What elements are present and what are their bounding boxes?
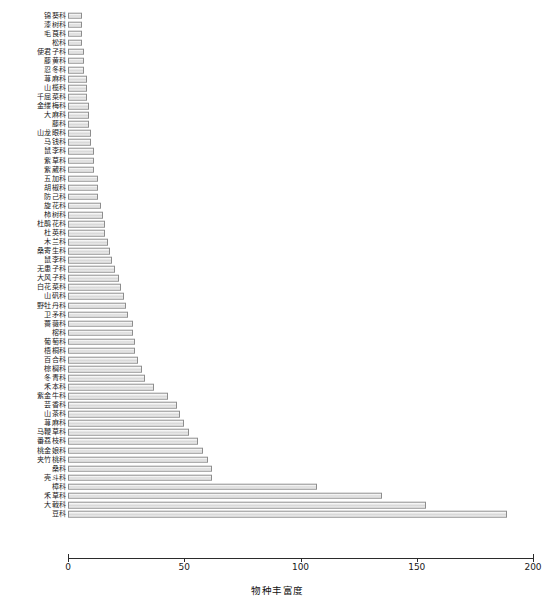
bar-row: 漆树科 xyxy=(0,20,555,29)
bar xyxy=(68,248,110,255)
bar-fill xyxy=(68,48,84,55)
bar-category-label: 大麻科 xyxy=(44,112,66,119)
bar-category-label: 棕榈科 xyxy=(44,365,66,372)
bar-category-label: 藤黄科 xyxy=(44,57,66,64)
bar xyxy=(68,266,115,273)
bar-fill xyxy=(68,284,121,291)
bar-category-label: 蔷薇科 xyxy=(44,320,66,327)
bar xyxy=(68,203,101,210)
bar-row: 山龙眼科 xyxy=(0,129,555,138)
bar xyxy=(68,21,82,28)
bar-fill xyxy=(68,465,212,472)
bar-category-label: 大戟科 xyxy=(44,501,66,508)
bar-row: 鼠李科 xyxy=(0,256,555,265)
bar-fill xyxy=(68,203,101,210)
bar xyxy=(68,511,507,518)
bar xyxy=(68,320,133,327)
bar xyxy=(68,193,98,200)
bar xyxy=(68,230,105,237)
bar-category-label: 梧桐科 xyxy=(44,347,66,354)
bar-fill xyxy=(68,121,89,128)
bar xyxy=(68,420,184,427)
bar xyxy=(68,184,98,191)
bar-fill xyxy=(68,175,98,182)
bar-row: 杜英科 xyxy=(0,229,555,238)
bar xyxy=(68,221,105,228)
bar xyxy=(68,302,126,309)
bar xyxy=(68,311,128,318)
bar-row: 马钱科 xyxy=(0,138,555,147)
bar-category-label: 柿树科 xyxy=(44,211,66,218)
bar-category-label: 冬青科 xyxy=(44,374,66,381)
bar-category-label: 卫矛科 xyxy=(44,311,66,318)
bar-category-label: 五加科 xyxy=(44,175,66,182)
bar-row: 千屈菜科 xyxy=(0,93,555,102)
bar-category-label: 马钱科 xyxy=(44,139,66,146)
bar-category-label: 防己科 xyxy=(44,193,66,200)
bar-fill xyxy=(68,193,98,200)
bar xyxy=(68,393,168,400)
x-axis-title: 物种丰富度 xyxy=(0,583,555,597)
bar-fill xyxy=(68,230,105,237)
bar-fill xyxy=(68,266,115,273)
bar-category-label: 芸香科 xyxy=(44,402,66,409)
bar xyxy=(68,76,87,83)
bar-row: 山茶科 xyxy=(0,410,555,419)
bar-fill xyxy=(68,493,382,500)
bar-fill xyxy=(68,511,507,518)
bar xyxy=(68,175,98,182)
bar-category-label: 夹竹桃科 xyxy=(37,456,66,463)
bar-row: 松科 xyxy=(0,38,555,47)
bar-fill xyxy=(68,76,87,83)
bar-row: 藤黄科 xyxy=(0,56,555,65)
bar-row: 葡萄科 xyxy=(0,337,555,346)
bar xyxy=(68,12,82,19)
bar-category-label: 无患子科 xyxy=(37,266,66,273)
bar-category-label: 榕科 xyxy=(52,329,66,336)
bar-row: 大风子科 xyxy=(0,274,555,283)
bar-fill xyxy=(68,447,203,454)
bar-category-label: 禾本科 xyxy=(44,384,66,391)
bar-fill xyxy=(68,411,180,418)
bar-category-label: 禾草科 xyxy=(44,492,66,499)
bar-row: 使君子科 xyxy=(0,47,555,56)
bar-category-label: 忍冬科 xyxy=(44,66,66,73)
bar-row: 杜鹃花科 xyxy=(0,219,555,228)
bar-row: 忍冬科 xyxy=(0,65,555,74)
bar xyxy=(68,474,212,481)
bar xyxy=(68,212,103,219)
x-axis-tick-label: 150 xyxy=(408,563,425,572)
bar-row: 紫葳科 xyxy=(0,165,555,174)
bar xyxy=(68,239,108,246)
bar-category-label: 白花菜科 xyxy=(37,284,66,291)
bar-category-label: 桑寄生科 xyxy=(37,248,66,255)
bar-category-label: 百合科 xyxy=(44,356,66,363)
bar xyxy=(68,411,180,418)
plot-area: 锦葵科漆树科毛茛科松科使君子科藤黄科忍冬科荨麻科山榄科千屈菜科金缕梅科大麻科藤科… xyxy=(0,0,555,560)
bar-category-label: 野牡丹科 xyxy=(37,302,66,309)
bar xyxy=(68,375,145,382)
bar-row: 锦葵科 xyxy=(0,11,555,20)
bar-fill xyxy=(68,85,87,92)
bar-row: 棕榈科 xyxy=(0,364,555,373)
bar-row: 冬青科 xyxy=(0,374,555,383)
bar-row: 荨麻科 xyxy=(0,419,555,428)
bar xyxy=(68,338,135,345)
bar xyxy=(68,257,112,264)
bar-row: 毛茛科 xyxy=(0,29,555,38)
bar-row: 蔷薇科 xyxy=(0,319,555,328)
x-axis-tick-label: 200 xyxy=(524,563,541,572)
bar-category-label: 马鞭草科 xyxy=(37,429,66,436)
bar-category-label: 荨麻科 xyxy=(44,75,66,82)
x-axis-tick-label: 50 xyxy=(179,563,190,572)
bar-row: 桑寄生科 xyxy=(0,247,555,256)
bar-category-label: 紫葳科 xyxy=(44,166,66,173)
bar xyxy=(68,275,119,282)
bar-row: 白花菜科 xyxy=(0,283,555,292)
bar xyxy=(68,493,382,500)
bar-row: 鼠李科 xyxy=(0,147,555,156)
bar-row: 荨麻科 xyxy=(0,74,555,83)
bar-row: 旋花科 xyxy=(0,201,555,210)
bar-category-label: 鼠李科 xyxy=(44,257,66,264)
bar-row: 榕科 xyxy=(0,328,555,337)
